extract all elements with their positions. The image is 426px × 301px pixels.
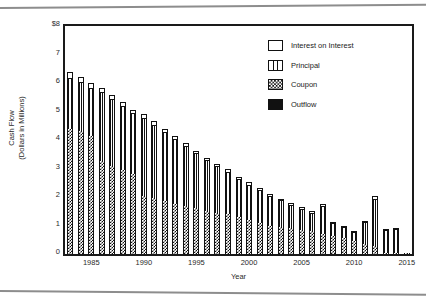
x-axis-ticks: 1985199019952000200520102015 (63, 258, 414, 270)
bar-segment-principal (78, 83, 84, 131)
bar-segment-coupon (67, 129, 73, 254)
bar-segment-interest-on-interest (141, 114, 147, 119)
bar-2009 (341, 226, 347, 254)
bar-segment-coupon (372, 246, 378, 254)
bar-1996 (204, 158, 210, 254)
bar-segment-principal (214, 167, 220, 213)
y-axis-ticks: 01234567$8 (30, 18, 60, 262)
bar-segment-principal (236, 180, 242, 217)
bar-segment-principal (257, 191, 263, 222)
bar-segment-principal (351, 233, 357, 241)
bar-segment-principal (362, 223, 368, 244)
legend-item-label: Interest on Interest (291, 41, 354, 50)
bar-segment-coupon (362, 244, 368, 254)
outflow-swatch-icon (268, 99, 283, 110)
y-axis-tick-label: 4 (56, 134, 60, 142)
bar-segment-interest-on-interest (162, 129, 168, 133)
bar-segment-principal (88, 89, 94, 136)
bar-2015 (404, 253, 410, 255)
bar-segment-coupon (120, 170, 126, 254)
x-axis-tick-label: 1985 (83, 258, 100, 267)
bar-segment-interest-on-interest (278, 199, 284, 202)
bar-1997 (214, 164, 220, 254)
bar-1989 (130, 110, 136, 254)
bar-segment-coupon (404, 253, 410, 254)
bar-1988 (120, 102, 126, 254)
bar-segment-principal (67, 79, 73, 129)
bar-2004 (288, 203, 294, 254)
bar-segment-coupon (383, 253, 389, 254)
bar-segment-interest-on-interest (214, 164, 220, 167)
bar-segment-interest-on-interest (393, 228, 399, 230)
bar-2003 (278, 199, 284, 254)
y-axis-tick-label: $8 (52, 20, 60, 28)
bar-segment-principal (183, 147, 189, 205)
bar-segment-principal (288, 206, 294, 229)
bar-segment-interest-on-interest (130, 110, 136, 115)
bar-segment-interest-on-interest (67, 72, 73, 78)
bar-segment-coupon (204, 211, 210, 254)
bar-1983 (67, 72, 73, 254)
x-axis-tick-label: 2005 (293, 258, 310, 267)
bar-2014 (393, 228, 399, 254)
x-axis-tick-label: 2010 (346, 258, 363, 267)
bar-segment-principal (320, 207, 326, 234)
bar-segment-coupon (267, 226, 273, 255)
bar-segment-interest-on-interest (225, 169, 231, 172)
bar-segment-interest-on-interest (267, 194, 273, 197)
y-axis-tick-label: 6 (56, 77, 60, 85)
bar-segment-coupon (225, 214, 231, 254)
bar-segment-coupon (320, 234, 326, 254)
bar-segment-principal (151, 126, 157, 199)
y-axis-tick-label: 3 (56, 163, 60, 171)
bar-segment-interest-on-interest (299, 207, 305, 210)
bar-segment-principal (130, 114, 136, 174)
bar-segment-coupon (393, 253, 399, 254)
bar-segment-interest-on-interest (362, 221, 368, 223)
bar-segment-coupon (99, 161, 105, 254)
bar-segment-interest-on-interest (341, 226, 347, 228)
bar-2012 (372, 196, 378, 254)
bar-segment-coupon (130, 174, 136, 254)
bar-segment-interest-on-interest (372, 196, 378, 199)
bar-2006 (309, 211, 315, 254)
bar-segment-principal (204, 161, 210, 211)
bar-1991 (151, 121, 157, 254)
coupon-swatch-icon (268, 79, 283, 90)
bar-segment-interest-on-interest (183, 143, 189, 147)
bar-segment-coupon (257, 223, 263, 254)
legend-item-principal: Principal (268, 58, 400, 73)
bar-segment-coupon (309, 231, 315, 254)
legend-item-label: Outflow (291, 100, 316, 109)
bar-segment-coupon (214, 213, 220, 254)
bar-segment-interest-on-interest (236, 177, 242, 180)
page-rule-bottom (0, 290, 426, 296)
bar-segment-interest-on-interest (257, 188, 263, 191)
chart-legend: Interest on InterestPrincipalCouponOutfl… (268, 38, 400, 116)
bar-segment-principal (225, 173, 231, 214)
bar-segment-interest-on-interest (309, 211, 315, 213)
bar-1987 (109, 95, 115, 254)
bar-segment-coupon (299, 230, 305, 254)
bar-segment-principal (99, 93, 105, 161)
bar-1984 (78, 77, 84, 254)
bar-segment-interest-on-interest (288, 203, 294, 206)
bar-2002 (267, 194, 273, 254)
interest-swatch-icon (268, 40, 283, 51)
bar-segment-interest-on-interest (320, 204, 326, 207)
bar-segment-principal (162, 133, 168, 201)
bar-segment-coupon (151, 198, 157, 254)
bar-segment-interest-on-interest (204, 158, 210, 162)
bar-segment-coupon (78, 131, 84, 254)
x-axis-tick-label: 1990 (136, 258, 153, 267)
bar-segment-coupon (193, 208, 199, 254)
bar-2011 (362, 221, 368, 254)
bar-segment-interest-on-interest (109, 95, 115, 100)
y-axis-title: Cash Flow (Dollars in Millions) (7, 53, 27, 203)
bar-1992 (162, 129, 168, 254)
bar-segment-principal (193, 154, 199, 208)
legend-item-interest-on-interest: Interest on Interest (268, 38, 400, 53)
bar-segment-coupon (183, 206, 189, 254)
bar-segment-coupon (330, 236, 336, 254)
bar-segment-coupon (162, 201, 168, 254)
